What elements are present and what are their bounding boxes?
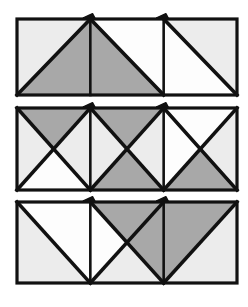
bands-layer bbox=[17, 19, 237, 283]
figure-root bbox=[0, 0, 248, 307]
triangular-tiling-diagram bbox=[0, 0, 248, 307]
band-bottom bbox=[17, 202, 237, 283]
band-top bbox=[17, 19, 237, 95]
band-middle bbox=[17, 108, 237, 190]
